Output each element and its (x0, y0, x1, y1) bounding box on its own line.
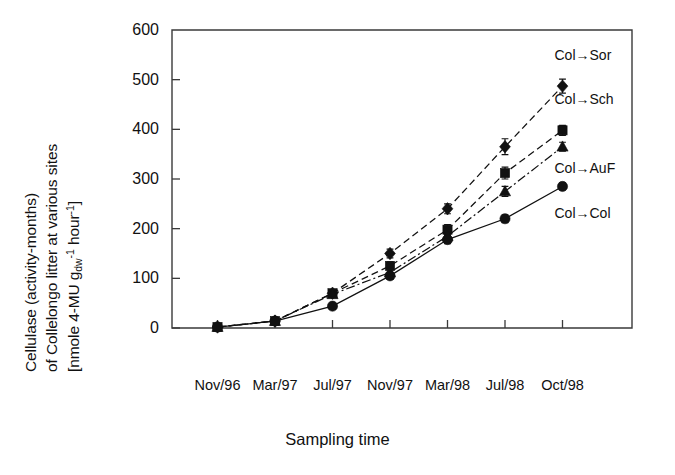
data-point-diamond (385, 247, 396, 259)
plot-frame (172, 30, 632, 328)
series-col-auf (212, 141, 568, 331)
series-line (218, 147, 563, 327)
series-col-sor (212, 79, 568, 333)
data-point-circle (557, 181, 567, 191)
data-point-circle (385, 271, 395, 281)
series-col-sch (213, 125, 567, 331)
series-line (218, 130, 563, 327)
data-point-circle (270, 316, 280, 326)
data-point-triangle (557, 141, 568, 151)
data-point-square (500, 168, 509, 177)
data-point-circle (442, 234, 452, 244)
data-point-square (558, 126, 567, 135)
data-point-circle (212, 322, 222, 332)
data-point-circle (500, 214, 510, 224)
data-point-diamond (557, 80, 568, 92)
data-point-circle (327, 301, 337, 311)
data-point-triangle (499, 186, 510, 196)
plot-area (0, 0, 675, 475)
cellulase-activity-chart: Cellulase (activity-months) of Collelong… (0, 0, 675, 475)
series-line (218, 86, 563, 327)
